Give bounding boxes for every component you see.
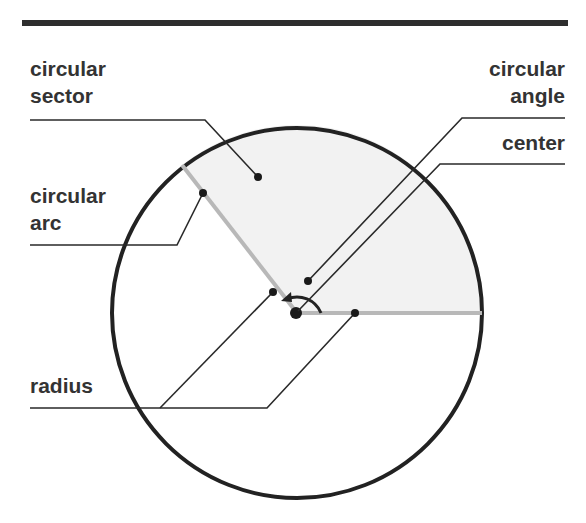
leader-dot-radius-left: [269, 288, 277, 296]
circular-sector-fill: [182, 125, 482, 313]
leader-dot-angle: [304, 277, 312, 285]
label-radius: radius: [30, 372, 93, 399]
leader-dot-sector: [254, 173, 262, 181]
label-center: center: [502, 129, 565, 156]
label-angle-line2: angle: [489, 82, 565, 109]
label-center-line1: center: [502, 129, 565, 156]
label-arc-line2: arc: [30, 209, 106, 236]
label-angle-line1: circular: [489, 55, 565, 82]
label-circular-sector: circular sector: [30, 55, 106, 109]
leader-dot-radius-right: [351, 309, 359, 317]
label-radius-line1: radius: [30, 372, 93, 399]
label-sector-line1: circular: [30, 55, 106, 82]
leader-line-radius-left: [160, 292, 273, 408]
label-sector-line2: sector: [30, 82, 106, 109]
top-rule: [22, 20, 568, 26]
circle-parts-diagram: circular sector circular angle center ci…: [0, 0, 586, 523]
leader-dot-arc: [199, 189, 207, 197]
label-circular-arc: circular arc: [30, 182, 106, 236]
label-circular-angle: circular angle: [489, 55, 565, 109]
label-arc-line1: circular: [30, 182, 106, 209]
